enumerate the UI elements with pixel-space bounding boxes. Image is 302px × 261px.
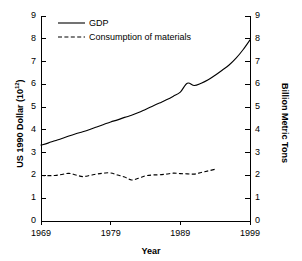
y-tick-label-left-7: 7 bbox=[22, 56, 36, 66]
x-tick-label-1979: 1979 bbox=[91, 228, 131, 238]
y-tick-label-left-1: 1 bbox=[22, 192, 36, 202]
x-axis-title: Year bbox=[0, 246, 302, 256]
x-tick-label-1969: 1969 bbox=[21, 228, 61, 238]
legend-label-consumption-of-materials: Consumption of materials bbox=[89, 32, 191, 42]
y-tick-label-right-4: 4 bbox=[255, 124, 269, 134]
y-tick-label-left-4: 4 bbox=[22, 124, 36, 134]
y-tick-label-left-5: 5 bbox=[22, 101, 36, 111]
y-tick-label-right-2: 2 bbox=[255, 169, 269, 179]
series-line-gdp bbox=[41, 40, 250, 145]
y-tick-label-left-8: 8 bbox=[22, 33, 36, 43]
y-axis-title-left-exponent: 12 bbox=[14, 82, 20, 89]
legend-label-gdp: GDP bbox=[89, 18, 109, 28]
x-tick-label-1999: 1999 bbox=[230, 228, 270, 238]
x-tick-label-1989: 1989 bbox=[160, 228, 200, 238]
y-axis-ticks-left bbox=[41, 16, 46, 221]
x-axis-ticks bbox=[41, 221, 250, 225]
y-tick-label-right-8: 8 bbox=[255, 33, 269, 43]
y-tick-label-left-0: 0 bbox=[22, 215, 36, 225]
y-tick-label-left-2: 2 bbox=[22, 169, 36, 179]
axis-lines bbox=[41, 16, 250, 221]
y-tick-label-left-3: 3 bbox=[22, 147, 36, 157]
y-tick-label-left-9: 9 bbox=[22, 10, 36, 20]
y-tick-label-right-9: 9 bbox=[255, 10, 269, 20]
y-tick-label-right-6: 6 bbox=[255, 78, 269, 88]
y-tick-label-right-5: 5 bbox=[255, 101, 269, 111]
y-tick-label-right-1: 1 bbox=[255, 192, 269, 202]
y-tick-label-right-3: 3 bbox=[255, 147, 269, 157]
y-tick-label-right-0: 0 bbox=[255, 215, 269, 225]
series-line-consumption-of-materials bbox=[41, 169, 215, 180]
y-axis-title-right: Billion Metric Tons bbox=[280, 63, 290, 183]
y-tick-label-right-7: 7 bbox=[255, 56, 269, 66]
chart-figure: GDP Consumption of materials US 1990 Dol… bbox=[0, 0, 302, 261]
y-tick-label-left-6: 6 bbox=[22, 78, 36, 88]
